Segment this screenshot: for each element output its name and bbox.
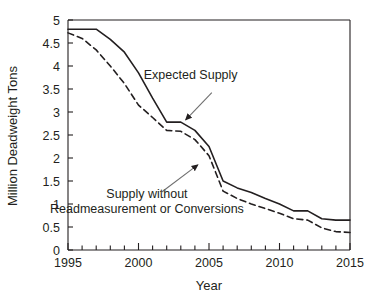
x-axis-tick-labels: 19952000200520102015 (54, 256, 364, 270)
y-axis-tick-labels: 00.511.522.533.544.55 (43, 14, 60, 258)
chart-container: 00.511.522.533.544.55 199520002005201020… (0, 0, 375, 299)
x-tick-label: 2000 (125, 256, 153, 270)
y-tick-label: 3 (53, 106, 60, 120)
y-tick-label: 2 (53, 152, 60, 166)
x-axis-title: Year (196, 278, 223, 293)
y-tick-label: 4.5 (43, 37, 60, 51)
annotation-expected-supply: Expected Supply (144, 68, 239, 120)
annotation-label: Expected Supply (144, 68, 239, 82)
y-tick-label: 4 (53, 60, 60, 74)
annotation-supply-without-readmeasurement: Supply withoutReadmeasurement or Convers… (50, 165, 244, 217)
y-tick-label: 1.5 (43, 175, 60, 189)
annotations-layer: Expected SupplySupply withoutReadmeasure… (50, 68, 244, 217)
x-axis-ticks (68, 243, 350, 250)
y-tick-label: 5 (53, 14, 60, 28)
y-tick-label: 2.5 (43, 129, 60, 143)
annotation-arrow (186, 93, 212, 120)
annotation-label: Supply without (106, 187, 188, 201)
annotation-label: Readmeasurement or Conversions (50, 202, 244, 216)
x-tick-label: 2010 (266, 256, 294, 270)
y-axis-title: Million Deadweight Tons (5, 66, 20, 206)
x-tick-label: 2015 (336, 256, 364, 270)
x-tick-label: 1995 (54, 256, 82, 270)
y-tick-label: 3.5 (43, 83, 60, 97)
line-chart: 00.511.522.533.544.55 199520002005201020… (0, 0, 375, 299)
y-tick-label: 0.5 (43, 221, 60, 235)
x-tick-label: 2005 (195, 256, 223, 270)
